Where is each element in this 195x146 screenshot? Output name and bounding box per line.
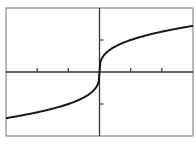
cube-root-chart: [0, 0, 195, 146]
